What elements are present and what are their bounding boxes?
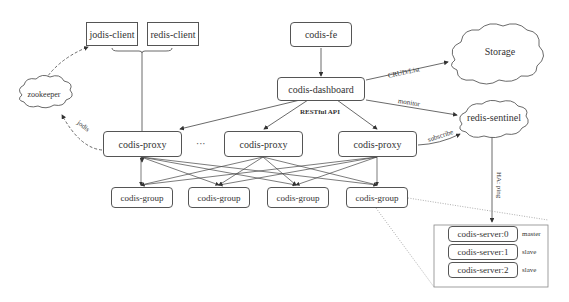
codis-server-label: codis-server:1 (458, 247, 509, 257)
codis-fe-node: codis-fe (290, 22, 352, 47)
codis-group-node: codis-group (111, 187, 173, 208)
codis-server-node: codis-server:0 (448, 226, 518, 242)
codis-group-label: codis-group (356, 193, 399, 203)
codis-group-node: codis-group (188, 187, 250, 208)
codis-group-label: codis-group (121, 193, 164, 203)
codis-dashboard-node: codis-dashboard (277, 77, 365, 101)
server-role: slave (522, 248, 536, 256)
codis-group-label: codis-group (277, 193, 320, 203)
proxy-ellipsis: ··· (196, 138, 206, 149)
codis-server-node: codis-server:2 (448, 262, 518, 278)
server-role: master (522, 230, 541, 238)
jodis-client-node: jodis-client (86, 22, 138, 46)
codis-dashboard-label: codis-dashboard (288, 84, 354, 95)
codis-group-node: codis-group (346, 187, 408, 208)
codis-proxy-label: codis-proxy (354, 139, 402, 150)
codis-group-node: codis-group (267, 187, 329, 208)
server-role: slave (522, 266, 536, 274)
restful-api-label: RESTful API (300, 108, 340, 116)
codis-server-label: codis-server:2 (458, 265, 509, 275)
redis-sentinel-label: redis-sentinel (462, 112, 526, 123)
codis-fe-label: codis-fe (305, 29, 337, 40)
redis-client-node: redis-client (147, 22, 199, 46)
codis-proxy-node: codis-proxy (338, 131, 417, 157)
zookeeper-label: zookeeper (18, 90, 70, 99)
codis-server-label: codis-server:0 (458, 229, 509, 239)
redis-client-label: redis-client (151, 29, 196, 40)
jodis-client-label: jodis-client (90, 29, 135, 40)
storage-label: Storage (470, 46, 530, 57)
codis-proxy-node: codis-proxy (103, 131, 182, 157)
codis-proxy-label: codis-proxy (240, 139, 288, 150)
ha-ping-label: HA: ping (495, 172, 503, 198)
codis-proxy-label: codis-proxy (119, 139, 167, 150)
codis-server-node: codis-server:1 (448, 244, 518, 260)
codis-proxy-node: codis-proxy (224, 131, 303, 157)
codis-group-label: codis-group (198, 193, 241, 203)
